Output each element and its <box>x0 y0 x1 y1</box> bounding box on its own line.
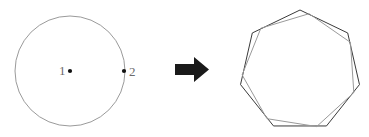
point-label-2: 2 <box>129 64 136 79</box>
boundary-point-dot <box>122 69 126 73</box>
center-point-dot <box>68 69 72 73</box>
geometry-figure: 1 2 <box>0 0 369 137</box>
point-label-1: 1 <box>59 63 66 78</box>
